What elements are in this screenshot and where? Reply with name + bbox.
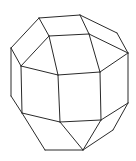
edge-AE xyxy=(11,18,39,48)
edge-NQ xyxy=(83,120,101,150)
edge-FL xyxy=(21,66,22,113)
edge-FG xyxy=(21,66,58,75)
edge-CG xyxy=(49,36,58,75)
polyhedron-figure xyxy=(0,0,136,161)
edge-DJ xyxy=(89,34,128,53)
edge-GH xyxy=(58,72,100,75)
edge-MN xyxy=(60,120,101,122)
edge-EF xyxy=(11,48,21,66)
edge-GM xyxy=(58,75,60,122)
edge-KL xyxy=(11,96,22,113)
edge-AB xyxy=(39,15,80,18)
edge-LR xyxy=(22,113,45,150)
edge-PQ xyxy=(83,130,113,150)
edge-CD xyxy=(49,34,89,36)
edge-DH xyxy=(89,34,100,72)
edge-MQ xyxy=(60,122,83,150)
edge-BD xyxy=(80,15,89,34)
edge-BI xyxy=(80,15,117,33)
edge-CF xyxy=(21,36,49,66)
edge-LM xyxy=(22,113,60,122)
edge-OP xyxy=(113,103,128,130)
edge-NO xyxy=(101,103,128,120)
edge-HN xyxy=(100,72,101,120)
polyhedron-drawing xyxy=(0,0,136,161)
edge-AC xyxy=(39,18,49,36)
edge-HJ xyxy=(100,53,128,72)
